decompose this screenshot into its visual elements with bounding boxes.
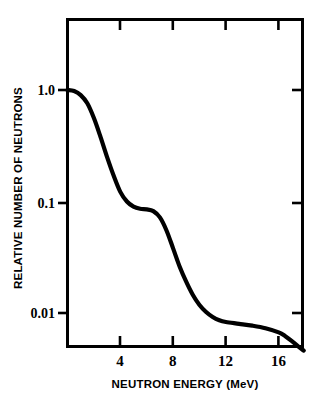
neutron-spectrum-chart: 1.0 0.1 0.01 4 8 12 16 NEUTRON ENERGY (M…	[0, 0, 320, 402]
y-tick-label-1p0: 1.0	[38, 83, 56, 98]
figure-container: 1.0 0.1 0.01 4 8 12 16 NEUTRON ENERGY (M…	[0, 0, 320, 402]
y-tick-label-0p01: 0.01	[31, 306, 56, 321]
x-tick-label-8: 8	[169, 353, 177, 369]
x-tick-label-12: 12	[218, 353, 233, 369]
x-tick-label-4: 4	[116, 353, 124, 369]
x-tick-label-16: 16	[271, 353, 287, 369]
y-tick-label-0p1: 0.1	[38, 196, 56, 211]
x-axis-title: NEUTRON ENERGY (MeV)	[112, 378, 259, 390]
y-axis-title: RELATIVE NUMBER OF NEUTRONS	[12, 87, 24, 289]
